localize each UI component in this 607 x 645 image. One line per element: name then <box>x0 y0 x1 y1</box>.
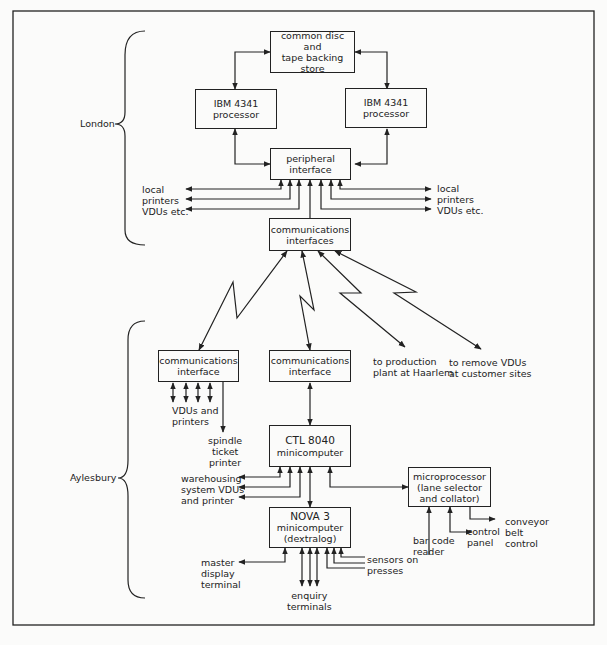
master-display-terminal-label: masterdisplayterminal <box>201 557 241 590</box>
region-label-aylesbury: Aylesbury <box>70 472 117 483</box>
ibm-processor-right-box: IBM 4341processor <box>345 88 427 128</box>
haarlem-label: to productionplant at Haarlem <box>373 356 453 378</box>
warehousing-label: warehousingsystem VDUsand printer <box>181 473 244 506</box>
local-printers-right-label: localprintersVDUs etc. <box>437 183 484 216</box>
remote-vdus-label: to remove VDUsat customer sites <box>449 357 531 379</box>
communications-interface-b-box: communicationsinterface <box>269 350 351 382</box>
nova-3-box: NOVA 3minicomputer(dextralog) <box>269 507 351 548</box>
aylesbury-brace <box>118 321 145 598</box>
conveyor-belt-control-label: conveyorbeltcontrol <box>505 516 549 549</box>
ctl-8040-box: CTL 8040minicomputer <box>269 425 351 467</box>
backing-store-box: common disc andtape backing store <box>270 31 355 73</box>
communications-interface-a-box: communicationsinterface <box>158 350 239 382</box>
spindle-ticket-printer-label: spindleticketprinter <box>208 435 242 468</box>
communications-interfaces-box: communicationsinterfaces <box>269 218 351 251</box>
london-brace <box>115 31 145 245</box>
peripheral-interface-box: peripheralinterface <box>270 148 351 180</box>
local-printers-left-label: localprintersVDUs etc. <box>142 184 189 217</box>
vdus-and-printers-label: VDUs andprinters <box>172 405 219 427</box>
sensors-on-presses-label: sensors onpresses <box>367 554 418 576</box>
microprocessor-box: microprocessor(lane selectorand collator… <box>408 467 491 507</box>
ibm-processor-left-box: IBM 4341processor <box>195 89 277 129</box>
bar-code-reader-label: bar codereader <box>413 535 455 557</box>
control-panel-label: controlpanel <box>467 526 500 548</box>
enquiry-terminals-label: enquiryterminals <box>287 590 332 612</box>
region-label-london: London <box>80 118 115 129</box>
